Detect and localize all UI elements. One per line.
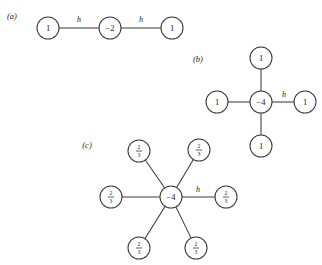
figure-canvas: −211hh(a)−41111h(b)−4232323232323h(c) <box>0 0 322 265</box>
panel-label-c: (c) <box>82 140 92 150</box>
node-value: −4 <box>256 97 266 107</box>
stencil-node-b-center: −4 <box>250 91 272 113</box>
node-value: 1 <box>303 97 307 107</box>
panel-label-a: (a) <box>7 11 17 21</box>
fraction-denominator: 3 <box>110 198 113 204</box>
node-value: 1 <box>46 23 50 33</box>
stencil-panel-b: −41111h(b) <box>193 47 316 157</box>
stencil-edge-c-0 <box>145 160 164 188</box>
stencil-panel-c: −4232323232323h(c) <box>82 139 237 259</box>
fraction-denominator: 3 <box>138 249 141 255</box>
panel-label-b: (b) <box>193 54 203 64</box>
stencil-node-a-neighbor-0: 1 <box>37 17 59 39</box>
stencil-node-b-neighbor-2: 1 <box>294 91 316 113</box>
node-value: 1 <box>259 141 263 151</box>
node-value: −4 <box>166 192 176 202</box>
stencil-diagram-svg: −211hh(a)−41111h(b)−4232323232323h(c) <box>0 0 322 265</box>
stencil-node-c-neighbor-1: 23 <box>188 139 210 161</box>
stencil-panel-a: −211hh(a) <box>7 11 183 39</box>
stencil-node-b-neighbor-1: 1 <box>206 91 228 113</box>
fraction-denominator: 3 <box>198 151 201 157</box>
fraction-denominator: 3 <box>225 198 228 204</box>
stencil-node-a-center: −2 <box>99 17 121 39</box>
stencil-node-b-neighbor-0: 1 <box>250 47 272 69</box>
fraction-numerator: 2 <box>110 190 113 196</box>
fraction-numerator: 2 <box>138 241 141 247</box>
edge-label-h-a-1: h <box>139 15 143 24</box>
stencil-node-c-neighbor-5: 23 <box>185 237 207 259</box>
edge-label-h-c-3: h <box>196 185 200 194</box>
stencil-node-c-neighbor-2: 23 <box>100 186 122 208</box>
stencil-node-b-neighbor-3: 1 <box>250 135 272 157</box>
stencil-node-c-neighbor-0: 23 <box>128 140 150 162</box>
stencil-node-c-center: −4 <box>160 186 182 208</box>
fraction-numerator: 2 <box>195 241 198 247</box>
node-value: 1 <box>215 97 219 107</box>
fraction-denominator: 3 <box>138 152 141 158</box>
node-value: −2 <box>105 23 114 33</box>
fraction-denominator: 3 <box>195 249 198 255</box>
node-value: 1 <box>259 53 263 63</box>
node-value: 1 <box>170 23 174 33</box>
fraction-numerator: 2 <box>138 144 141 150</box>
stencil-node-c-neighbor-3: 23 <box>215 186 237 208</box>
stencil-edge-c-5 <box>176 207 191 238</box>
edge-label-h-b-2: h <box>282 90 286 99</box>
stencil-edge-c-1 <box>177 159 194 187</box>
fraction-numerator: 2 <box>225 190 228 196</box>
stencil-node-c-neighbor-4: 23 <box>128 237 150 259</box>
edge-label-h-a-0: h <box>77 15 81 24</box>
stencil-edge-c-4 <box>145 206 165 238</box>
stencil-node-a-neighbor-1: 1 <box>161 17 183 39</box>
fraction-numerator: 2 <box>198 143 201 149</box>
